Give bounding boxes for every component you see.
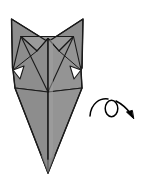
center-highlight (49, 40, 53, 168)
origami-diagram-figure: Origami fox head diagram with turn-over … (0, 0, 143, 190)
origami-illustration (0, 0, 143, 190)
